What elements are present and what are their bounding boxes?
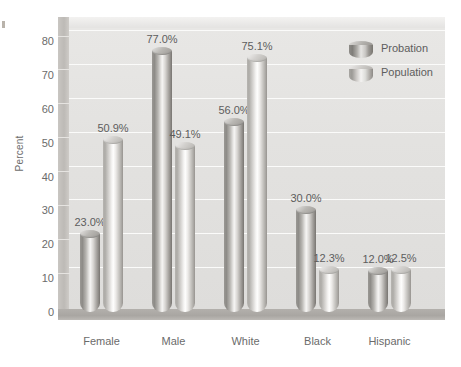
bar-black-population [319, 266, 339, 312]
bar-male-population [175, 142, 195, 312]
y-axis-tick-label: 60 [32, 104, 54, 115]
legend-item-probation[interactable]: Probation [349, 38, 449, 62]
data-label: 12.3% [313, 253, 344, 264]
bar-white-population [247, 54, 267, 312]
y-axis-tick-label: 80 [32, 36, 54, 47]
bar-male-probation [152, 47, 172, 312]
bar-cylinder-body [175, 146, 195, 312]
y-axis-tick-label: 0 [32, 307, 54, 318]
chart-legend: Probation Population [349, 38, 449, 86]
x-axis-category-label: Black [304, 335, 331, 347]
cylinder-icon [349, 41, 373, 58]
x-axis-category-label: White [231, 335, 259, 347]
y-axis-tick-label: 10 [32, 273, 54, 284]
y-axis-tick-label: 30 [32, 205, 54, 216]
y-axis-tick-label: 50 [32, 138, 54, 149]
bar-female-probation [80, 230, 100, 312]
x-axis-category-label: Male [162, 335, 186, 347]
scan-artifact [2, 21, 5, 28]
bar-top-ellipse [103, 136, 123, 144]
bar-cylinder-body [319, 270, 339, 312]
y-axis-tick-label: 40 [32, 172, 54, 183]
bar-top-ellipse [247, 54, 267, 62]
y-axis-tick-label: 70 [32, 70, 54, 81]
legend-item-label: Population [381, 66, 433, 78]
data-label: 77.0% [146, 34, 177, 45]
bar-cylinder-body [224, 122, 244, 312]
data-label: 56.0% [218, 105, 249, 116]
y-axis-tick-label: 20 [32, 239, 54, 250]
bar-hispanic-population [391, 266, 411, 312]
bar-cylinder-body [103, 140, 123, 312]
bar-chart-figure: Percent 80706050403020100 23.0%50.9%77.0… [0, 0, 461, 367]
data-label: 50.9% [97, 123, 128, 134]
bar-top-ellipse [391, 266, 411, 274]
bar-top-ellipse [175, 142, 195, 150]
bar-cylinder-body [152, 51, 172, 312]
bar-hispanic-probation [368, 267, 388, 312]
x-axis-category-label: Hispanic [368, 335, 410, 347]
cylinder-icon [349, 65, 373, 82]
data-label: 75.1% [241, 41, 272, 52]
bar-cylinder-body [247, 58, 267, 312]
bar-cylinder-body [80, 234, 100, 312]
data-label: 12.5% [385, 253, 416, 264]
data-label: 49.1% [169, 129, 200, 140]
data-label: 23.0% [74, 217, 105, 228]
y-axis-title: Percent [14, 124, 25, 184]
legend-item-population[interactable]: Population [349, 62, 449, 86]
data-label: 30.0% [290, 193, 321, 204]
x-axis-category-label: Female [83, 335, 120, 347]
bar-cylinder-body [368, 271, 388, 312]
legend-item-label: Probation [381, 42, 428, 54]
bar-white-probation [224, 118, 244, 312]
bar-cylinder-body [391, 270, 411, 312]
bar-female-population [103, 136, 123, 312]
y-axis-tick-labels: 80706050403020100 [28, 0, 54, 367]
